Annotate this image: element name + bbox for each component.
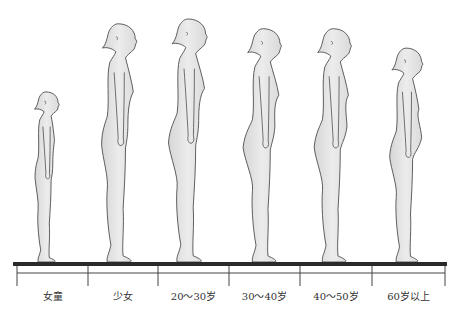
body-outline	[35, 92, 60, 262]
stage-label: 30～40岁	[230, 288, 300, 303]
body-shape-diagram	[0, 0, 458, 319]
body-outline	[243, 29, 281, 262]
figure-silhouette	[390, 48, 423, 262]
stage-label: 20～30岁	[159, 288, 229, 303]
ground-line	[13, 262, 447, 266]
figures-group	[35, 19, 423, 262]
body-outline	[102, 24, 137, 262]
figure-silhouette	[169, 19, 208, 262]
scale-ticks	[17, 266, 445, 286]
stage-label: 60岁以上	[374, 288, 444, 303]
figure-silhouette	[243, 29, 281, 262]
stage-label: 女童	[18, 288, 88, 303]
stage-label: 40～50岁	[301, 288, 371, 303]
figure-silhouette	[314, 29, 351, 262]
ground-scale	[13, 262, 447, 286]
figure-silhouette	[102, 24, 137, 262]
stage-label: 少女	[88, 288, 158, 303]
figure-silhouette	[35, 92, 60, 262]
